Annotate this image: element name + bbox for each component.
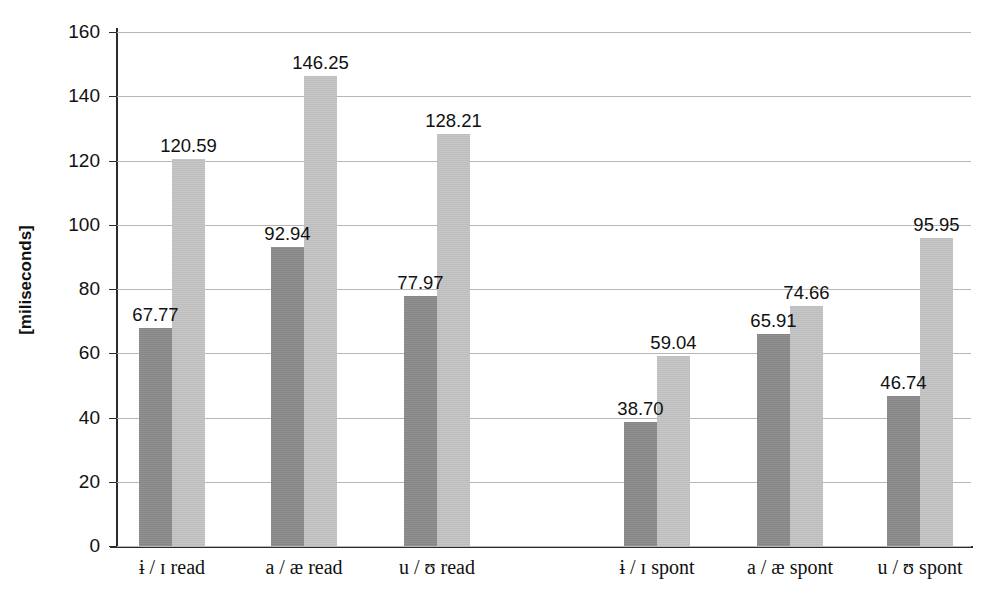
y-axis-tick xyxy=(109,289,117,290)
bar-value-label: 146.25 xyxy=(292,52,349,74)
y-axis-tick-label: 80 xyxy=(30,278,100,300)
bar xyxy=(757,334,790,546)
bar-value-label: 128.21 xyxy=(425,110,482,132)
y-axis-tick-label: 20 xyxy=(30,471,100,493)
y-axis-tick-label: 160 xyxy=(30,21,100,43)
y-axis-tick xyxy=(109,546,117,547)
gridline xyxy=(116,353,971,354)
x-axis-category-label: u / ʊ read xyxy=(399,556,475,579)
gridline xyxy=(116,418,971,419)
bar xyxy=(271,247,304,546)
bar-value-label: 46.74 xyxy=(880,372,926,394)
bar xyxy=(172,159,205,546)
x-axis-category-label: ɨ / ɪ spont xyxy=(619,556,694,579)
y-axis-tick xyxy=(109,161,117,162)
x-axis-category-label: u / ʊ spont xyxy=(878,556,963,579)
bar xyxy=(624,422,657,546)
gridline xyxy=(116,32,971,33)
bar-value-label: 77.97 xyxy=(397,272,443,294)
y-axis-tick xyxy=(109,225,117,226)
x-axis-category-label: a / æ spont xyxy=(747,556,833,579)
bar-value-label: 38.70 xyxy=(617,398,663,420)
y-axis-tick-label: 60 xyxy=(30,342,100,364)
bar-chart: [miliseconds] 160140120100806040200 ɨ / … xyxy=(0,0,996,614)
bar xyxy=(139,328,172,546)
bar xyxy=(657,356,690,546)
bar-value-label: 67.77 xyxy=(132,304,178,326)
bar-value-label: 65.91 xyxy=(750,310,796,332)
gridline xyxy=(116,161,971,162)
bar-value-label: 120.59 xyxy=(160,135,217,157)
y-axis-line xyxy=(116,28,118,548)
x-axis-category-label: a / æ read xyxy=(265,556,342,579)
bar-value-label: 74.66 xyxy=(783,282,829,304)
y-axis-tick-label: 40 xyxy=(30,407,100,429)
gridline xyxy=(116,482,971,483)
gridline xyxy=(116,289,971,290)
bar-value-label: 95.95 xyxy=(913,214,959,236)
gridline xyxy=(116,96,971,97)
y-axis-tick-label: 120 xyxy=(30,150,100,172)
gridline xyxy=(116,225,971,226)
gridline xyxy=(116,546,971,547)
bar-value-label: 92.94 xyxy=(264,223,310,245)
y-axis-tick-label: 100 xyxy=(30,214,100,236)
y-axis-tick xyxy=(109,353,117,354)
bar xyxy=(887,396,920,546)
bar xyxy=(437,134,470,546)
y-axis-tick xyxy=(109,482,117,483)
y-axis-tick xyxy=(109,96,117,97)
y-axis-tick-label: 140 xyxy=(30,85,100,107)
bar xyxy=(304,76,337,546)
y-axis-tick xyxy=(109,32,117,33)
bar xyxy=(404,296,437,546)
bar xyxy=(790,306,823,546)
x-axis-category-label: ɨ / ɪ read xyxy=(139,556,205,579)
y-axis-tick-label: 0 xyxy=(30,535,100,557)
plot-area xyxy=(116,32,971,546)
bar-value-label: 59.04 xyxy=(650,332,696,354)
y-axis-tick xyxy=(109,418,117,419)
